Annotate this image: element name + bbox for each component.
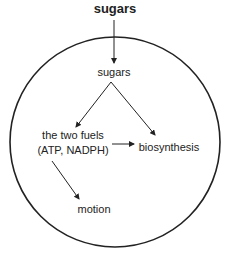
motion-node: motion [77, 202, 110, 216]
external-sugars-label: sugars [94, 2, 137, 16]
arrow-sugars-to-fuels [76, 82, 111, 127]
diagram-canvas [0, 0, 230, 258]
sugars-node: sugars [97, 65, 130, 79]
arrow-fuels-to-motion [52, 161, 79, 199]
biosynthesis-node: biosynthesis [139, 140, 200, 154]
arrow-sugars-to-biosynthesis [111, 82, 155, 135]
fuels-node-line1: the two fuels [42, 128, 104, 142]
fuels-node-line2: (ATP, NADPH) [37, 143, 108, 157]
